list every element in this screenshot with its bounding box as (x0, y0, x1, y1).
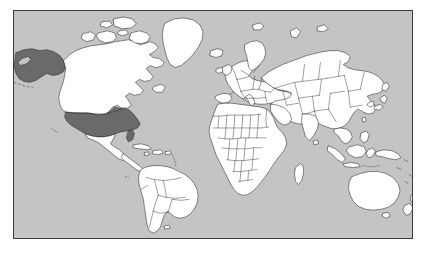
region-new-zealand-north (411, 193, 412, 203)
region-arctic-islet-2 (117, 30, 128, 36)
region-tasmania (382, 212, 390, 218)
region-philippines (360, 131, 369, 143)
region-ireland (216, 68, 223, 74)
region-galapagos (125, 177, 128, 178)
region-borneo (346, 145, 366, 158)
region-svalbard (253, 23, 264, 30)
region-jamaica (144, 152, 149, 156)
region-india (302, 114, 319, 141)
region-mexico (86, 134, 127, 161)
region-newfoundland (152, 84, 165, 92)
region-indonesia-islets (362, 166, 380, 167)
region-ellesmere-island (114, 17, 137, 29)
region-hispaniola (152, 150, 163, 155)
region-alaska (14, 49, 66, 83)
region-madagascar (295, 164, 304, 185)
region-java (343, 163, 360, 168)
world-map-svg (14, 11, 412, 238)
region-sulawesi (366, 148, 375, 158)
region-victoria-island (97, 31, 117, 43)
region-aleutians (14, 82, 33, 87)
world-map-figure (0, 0, 426, 254)
region-indochina (334, 128, 352, 144)
region-falkland-islands (164, 225, 170, 229)
region-arctic-islet-1 (101, 21, 113, 28)
region-florida (126, 130, 134, 142)
region-sumatra (327, 146, 345, 163)
region-sri-lanka (313, 140, 318, 145)
region-lesser-antilles (172, 155, 176, 167)
region-iberia (215, 93, 232, 103)
region-central-america (121, 154, 142, 172)
region-new-zealand-south (403, 203, 412, 215)
region-novaya-zemlya (291, 28, 301, 38)
region-cuba (133, 144, 151, 150)
region-japan-south (374, 104, 383, 110)
region-hawaii (52, 129, 58, 132)
region-banks-island (82, 32, 96, 42)
region-taiwan (362, 117, 366, 122)
region-arctic-islands-ru (317, 25, 328, 32)
region-pacific-islets (397, 160, 412, 184)
map-frame (13, 10, 413, 239)
region-canada (59, 40, 164, 115)
region-iceland (210, 49, 223, 58)
region-greenland (162, 18, 203, 68)
region-new-guinea (376, 150, 401, 160)
region-australia (348, 172, 400, 211)
region-japan (380, 95, 387, 103)
region-puerto-rico (165, 151, 171, 155)
